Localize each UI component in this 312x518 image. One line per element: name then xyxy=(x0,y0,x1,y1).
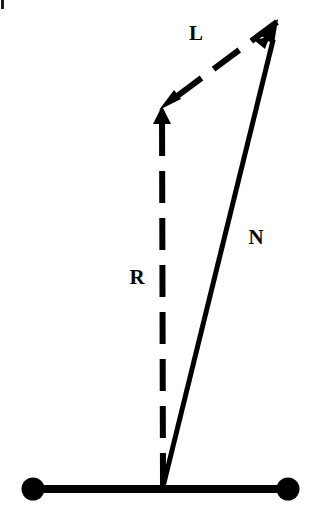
light-vector-label: L xyxy=(189,23,203,44)
vector-diagram-figure: L N R xyxy=(0,0,312,518)
normal-vector-label: N xyxy=(248,227,263,248)
reflection-vector-line xyxy=(162,124,163,485)
normal-vector-line xyxy=(163,39,273,487)
surface-left-endpoint-dot xyxy=(22,478,45,501)
reflection-vector-arrowhead xyxy=(153,106,171,124)
surface-right-endpoint-dot xyxy=(277,478,300,501)
vector-diagram-canvas xyxy=(0,0,312,518)
reflection-vector-label: R xyxy=(129,267,144,288)
